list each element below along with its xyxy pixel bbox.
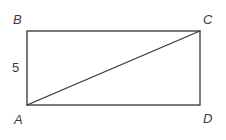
vertex-label-c: C [203,13,212,26]
vertex-label-d: D [203,112,212,125]
vertex-label-b: B [13,13,22,26]
figure-svg [0,0,226,140]
side-length-label-ab: 5 [12,61,19,74]
geometry-figure: B C A D 5 [0,0,226,140]
vertex-label-a: A [14,113,23,126]
